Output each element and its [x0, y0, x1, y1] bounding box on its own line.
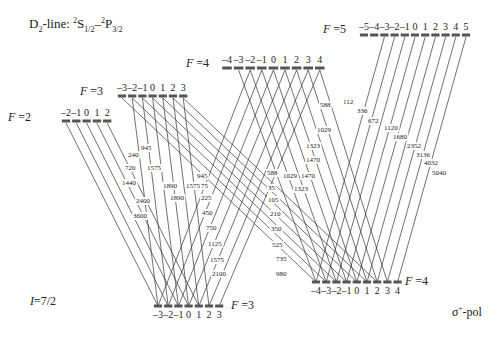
- excited-mf-label: 0: [271, 54, 276, 65]
- excited-mf-label: –3: [378, 21, 389, 32]
- ground-mf-label: 1: [196, 309, 201, 320]
- ground-sublevel-bar: [394, 281, 402, 284]
- ground-f-label: F =3: [231, 298, 254, 313]
- excited-mf-label: –2: [244, 54, 255, 65]
- excited-mf-label: –1: [399, 21, 410, 32]
- excited-sublevel-bar: [138, 95, 146, 98]
- excited-mf-label: 0: [84, 107, 89, 118]
- excited-sublevel-bar: [245, 67, 255, 70]
- transition-strength: 1125: [208, 240, 222, 248]
- transition-line: [347, 37, 415, 282]
- transition-strength: 1575: [147, 164, 162, 172]
- transition-strength: 1575: [210, 256, 225, 264]
- excited-f-label: F =3: [80, 84, 103, 99]
- f-value: =3: [238, 298, 254, 312]
- transition-strength: 980: [276, 270, 287, 278]
- transition-strength: 1440: [122, 179, 137, 187]
- ground-mf-label: –3: [320, 285, 331, 296]
- transition-strength: 1890: [170, 194, 185, 202]
- title-d: D: [29, 16, 38, 31]
- transition-strength: 2100: [212, 270, 227, 278]
- ground-sublevel-bar: [373, 281, 381, 284]
- excited-mf-label: –1: [70, 107, 81, 118]
- excited-mf-label: 5: [464, 21, 469, 32]
- nuclear-spin-label: I=7/2: [30, 294, 56, 309]
- transition-strength: 3136: [416, 151, 431, 159]
- excited-mf-label: 4: [317, 54, 322, 65]
- excited-mf-label: –1: [136, 82, 147, 93]
- excited-mf-label: 1: [160, 82, 165, 93]
- excited-mf-label: 2: [171, 82, 176, 93]
- excited-mf-label: 3: [443, 21, 448, 32]
- excited-sublevel-bar: [462, 34, 470, 37]
- excited-sublevel-bar: [179, 95, 187, 98]
- excited-sublevel-bar: [401, 34, 409, 37]
- transition-line: [122, 98, 316, 282]
- title-s-sub: 1/2: [84, 25, 94, 34]
- excited-mf-label: –3: [116, 82, 127, 93]
- transition-strength: 1680: [393, 133, 408, 141]
- excited-mf-label: –3: [233, 54, 244, 65]
- excited-sublevel-bar: [222, 67, 232, 70]
- transition-strength: 240: [128, 151, 139, 159]
- nuclear-spin-value: =7/2: [34, 294, 56, 308]
- transition-strength: 672: [368, 117, 379, 125]
- excited-sublevel-bar: [169, 95, 177, 98]
- excited-mf-label: 3: [306, 54, 311, 65]
- ground-sublevel-bar: [164, 305, 172, 308]
- polarization-label: σ+-pol: [452, 305, 482, 320]
- transition-line: [387, 37, 455, 282]
- transition-line: [326, 37, 394, 282]
- ground-sublevel-bar: [312, 281, 320, 284]
- transition-strength: 450: [202, 209, 213, 217]
- transition-strength: 1470: [301, 172, 316, 180]
- transition-strength: 1120: [384, 124, 398, 132]
- transition-strength: 75: [201, 182, 209, 190]
- ground-mf-label: –4: [310, 285, 321, 296]
- excited-sublevel-bar: [411, 34, 419, 37]
- excited-f-label: F =2: [8, 110, 31, 125]
- excited-sublevel-bar: [452, 34, 460, 37]
- f-value: =4: [412, 274, 428, 288]
- f-value: =5: [330, 22, 346, 36]
- ground-sublevel-bar: [154, 305, 162, 308]
- transition-strength: 588: [267, 169, 278, 177]
- excited-mf-label: –4: [221, 54, 232, 65]
- transition-line: [336, 37, 404, 282]
- excited-sublevel-bar: [280, 67, 290, 70]
- ground-mf-label: –3: [152, 309, 163, 320]
- f-value: =4: [193, 56, 209, 70]
- ground-sublevel-bar: [353, 281, 361, 284]
- transition-strength: 1890: [163, 182, 178, 190]
- transition-strength: 1323: [306, 142, 321, 150]
- excited-mf-label: –2: [126, 82, 137, 93]
- excited-sublevel-bar: [72, 120, 80, 123]
- ground-sublevel-bar: [174, 305, 182, 308]
- ground-sublevel-bar: [332, 281, 340, 284]
- transition-strength: 210: [270, 210, 281, 218]
- excited-mf-label: 4: [453, 21, 458, 32]
- transition-strength: 5040: [432, 169, 447, 177]
- ground-mf-label: 2: [207, 309, 212, 320]
- excited-sublevel-bar: [269, 67, 279, 70]
- transition-strength: 525: [272, 241, 283, 249]
- excited-sublevel-bar: [159, 95, 167, 98]
- ground-sublevel-bar: [343, 281, 351, 284]
- transition-strength: 2352: [407, 142, 422, 150]
- transition-strength: 945: [141, 144, 152, 152]
- excited-mf-label: 1: [423, 21, 428, 32]
- ground-sublevel-bar: [322, 281, 330, 284]
- excited-mf-label: 2: [105, 107, 110, 118]
- transition-strength: 225: [201, 194, 212, 202]
- excited-sublevel-bar: [257, 67, 267, 70]
- ground-mf-label: 0: [354, 285, 359, 296]
- excited-sublevel-bar: [303, 67, 313, 70]
- transition-strength: 2400: [136, 197, 151, 205]
- ground-mf-label: 0: [186, 309, 191, 320]
- ground-f-label: F =4: [405, 274, 428, 289]
- transition-strength: 350: [271, 225, 282, 233]
- excited-mf-label: 1: [94, 107, 99, 118]
- excited-sublevel-bar: [292, 67, 302, 70]
- excited-sublevel-bar: [118, 95, 126, 98]
- transition-strength: 1029: [283, 172, 298, 180]
